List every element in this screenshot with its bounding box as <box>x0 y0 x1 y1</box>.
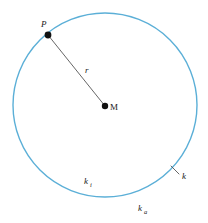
curve-label: k <box>182 171 187 181</box>
outer-region-label-base: k <box>138 203 143 213</box>
geometry-figure: P M r k i k a k <box>0 0 208 223</box>
inner-region-label-subscript: i <box>90 181 92 188</box>
radius-segment <box>48 35 105 106</box>
point-p-label: P <box>40 19 47 29</box>
outer-region-label: k a <box>138 203 147 215</box>
circle-diagram-canvas: P M r k i k a k <box>0 0 208 223</box>
point-p-marker <box>45 32 52 39</box>
radius-label: r <box>85 65 89 75</box>
inner-region-label: k i <box>84 176 92 188</box>
outer-region-label-subscript: a <box>144 208 147 215</box>
point-m-label: M <box>110 102 118 112</box>
leader-line-k-icon <box>171 166 179 174</box>
point-m-marker <box>102 103 108 109</box>
inner-region-label-base: k <box>84 176 89 186</box>
